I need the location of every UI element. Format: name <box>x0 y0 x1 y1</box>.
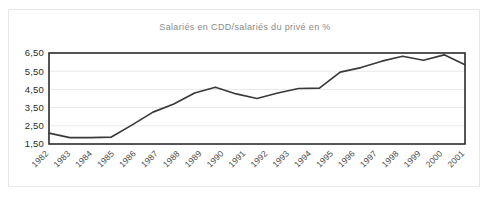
x-axis-tick-label: 1995 <box>314 148 335 169</box>
x-axis-tick-label: 1999 <box>402 148 423 169</box>
line-chart-plot: 1,502,503,504,505,506,50 198219831984198… <box>9 10 481 188</box>
x-axis-tick-label: 1997 <box>358 148 379 169</box>
y-axis-tick-label: 5,50 <box>25 66 44 77</box>
x-axis-tick-label: 1982 <box>29 148 50 169</box>
x-axis-tick-label: 1983 <box>51 148 72 169</box>
x-axis-tick-label: 1987 <box>139 148 160 169</box>
y-axis-tick-label: 2,50 <box>25 120 44 131</box>
x-axis-tick-label: 1998 <box>380 148 401 169</box>
x-axis-tick-label: 1989 <box>183 148 204 169</box>
x-axis-tick-label: 1993 <box>270 148 291 169</box>
data-series-line <box>49 55 465 138</box>
x-axis-tick-label: 1986 <box>117 148 138 169</box>
x-axis-tick-label: 1985 <box>95 148 116 169</box>
chart-figure: Salariés en CDD/salariés du privé en % 1… <box>8 9 480 187</box>
x-axis-tick-label: 1992 <box>248 148 269 169</box>
x-axis-tick-labels: 1982198319841985198619871988198919901991… <box>29 148 466 169</box>
x-axis-tick-label: 2000 <box>424 148 445 169</box>
y-axis-tick-label: 1,50 <box>25 138 44 149</box>
x-axis-tick-label: 1994 <box>292 148 313 169</box>
x-axis-tick-label: 1991 <box>226 148 247 169</box>
y-axis-tick-labels: 1,502,503,504,505,506,50 <box>25 47 44 149</box>
x-axis-tick-label: 2001 <box>445 148 466 169</box>
y-axis-tick-label: 3,50 <box>25 102 44 113</box>
x-axis-tick-label: 1984 <box>73 148 94 169</box>
y-axis-tick-label: 6,50 <box>25 47 44 58</box>
x-axis-tick-label: 1990 <box>205 148 226 169</box>
y-axis-tick-label: 4,50 <box>25 84 44 95</box>
x-axis-tick-label: 1988 <box>161 148 182 169</box>
x-axis-tick-label: 1996 <box>336 148 357 169</box>
